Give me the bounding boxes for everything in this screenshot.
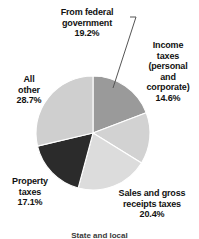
chart-caption-text: State and local bbox=[0, 231, 199, 239]
chart-caption-clipped: State and local bbox=[0, 231, 199, 239]
pie-chart-figure: From federal government 19.2% Income tax… bbox=[0, 0, 199, 239]
pie-label-income-taxes: Income taxes (personal and corporate) 14… bbox=[138, 40, 198, 103]
pie-label-sales-and-gross-receipts-taxes: Sales and gross receipts taxes 20.4% bbox=[106, 188, 198, 220]
pie-label-from-federal-government: From federal government 19.2% bbox=[46, 7, 128, 39]
pie-label-property-taxes: Property taxes 17.1% bbox=[2, 176, 58, 208]
pie-label-all-other: All other 28.7% bbox=[4, 74, 54, 106]
